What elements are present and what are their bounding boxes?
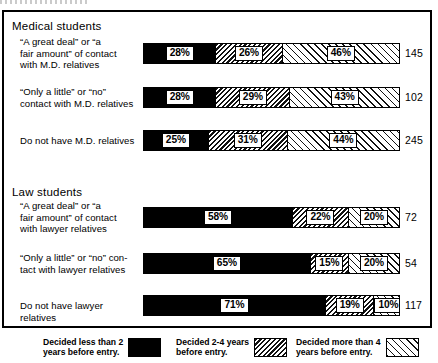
- bar-segment-value: 28%: [166, 46, 194, 61]
- stacked-bar: 28%26%46%: [143, 43, 400, 64]
- row-total: 145: [405, 47, 423, 59]
- bar-segment-value: 46%: [327, 46, 355, 61]
- bar-segment-0: 25%: [144, 131, 208, 150]
- legend-item: Decided less than 2 years before entry.: [43, 337, 161, 358]
- legend-swatch: [386, 338, 419, 357]
- bar-segment-1: 15%: [310, 254, 348, 273]
- bar-segment-1: 29%: [215, 88, 289, 107]
- legend-label: Decided less than 2 years before entry.: [43, 337, 123, 358]
- bar-segment-0: 71%: [144, 296, 325, 315]
- chart-legend: Decided less than 2 years before entry.D…: [0, 336, 438, 363]
- bar-segment-value: 28%: [166, 90, 194, 105]
- stacked-bar: 25%31%44%: [143, 130, 400, 151]
- bar-segment-2: 10%: [373, 296, 400, 315]
- bar-segment-2: 20%: [348, 254, 399, 273]
- legend-item: Decided 2-4 years before entry.: [176, 337, 287, 358]
- group-heading: Law students: [12, 186, 82, 198]
- stacked-bar: 58%22%20%: [143, 207, 400, 228]
- bar-segment-value: 29%: [239, 90, 267, 105]
- bar-segment-2: 44%: [287, 131, 399, 150]
- bar-segment-value: 44%: [329, 133, 357, 148]
- chart-row: Do not have M.D. relatives25%31%44%245: [0, 123, 430, 163]
- bar-segment-0: 65%: [144, 254, 310, 273]
- row-total: 54: [405, 257, 417, 269]
- row-label: “Only a little” or “no” contact with M.D…: [20, 86, 140, 109]
- row-label: Do not have M.D. relatives: [20, 135, 140, 147]
- bar-segment-value: 58%: [204, 210, 232, 225]
- bar-segment-value: 65%: [213, 256, 241, 271]
- stacked-bar: 28%29%43%: [143, 87, 400, 108]
- row-total: 72: [405, 211, 417, 223]
- legend-swatch: [254, 338, 287, 357]
- row-label: “A great deal” or “a fair amount” of con…: [20, 200, 140, 235]
- row-label: Do not have lawyer relatives: [20, 300, 140, 323]
- bar-segment-value: 31%: [234, 133, 262, 148]
- chart-row: “Only a little” or “no” contact with M.D…: [0, 80, 430, 120]
- group-heading: Medical students: [12, 20, 102, 32]
- bar-segment-value: 10%: [374, 298, 400, 313]
- bar-segment-0: 28%: [144, 88, 215, 107]
- row-label: “Only a little” or “no” con- tact with l…: [20, 252, 140, 275]
- bar-segment-1: 22%: [292, 208, 348, 227]
- bar-segment-value: 19%: [336, 298, 364, 313]
- bar-segment-0: 58%: [144, 208, 292, 227]
- bar-segment-value: 20%: [360, 256, 388, 271]
- row-total: 102: [405, 91, 423, 103]
- bar-segment-2: 46%: [282, 44, 399, 63]
- row-total: 117: [405, 299, 422, 311]
- stacked-bar: 65%15%20%: [143, 253, 400, 274]
- bar-segment-1: 26%: [215, 44, 281, 63]
- stacked-bar: 71%19%10%: [143, 295, 400, 316]
- legend-label: Decided more than 4 years before entry.: [296, 337, 381, 358]
- bar-segment-value: 43%: [331, 90, 359, 105]
- chart-row: “A great deal” or “a fair amount” of con…: [0, 200, 430, 240]
- bar-segment-2: 43%: [289, 88, 399, 107]
- chart-row: “Only a little” or “no” con- tact with l…: [0, 246, 430, 286]
- bar-segment-value: 20%: [360, 210, 388, 225]
- bar-segment-1: 31%: [208, 131, 287, 150]
- chart-row: “A great deal” or “a fair amount” of con…: [0, 36, 430, 76]
- chart-row: Do not have lawyer relatives71%19%10%117: [0, 288, 430, 328]
- legend-swatch: [128, 338, 161, 357]
- bar-segment-value: 71%: [220, 298, 248, 313]
- bar-segment-2: 20%: [348, 208, 399, 227]
- bar-segment-1: 19%: [325, 296, 373, 315]
- bar-segment-value: 26%: [235, 46, 263, 61]
- bar-segment-value: 25%: [162, 133, 190, 148]
- scan-artifact: [0, 0, 90, 4]
- legend-item: Decided more than 4 years before entry.: [296, 337, 419, 358]
- bar-segment-value: 22%: [306, 210, 334, 225]
- bar-segment-0: 28%: [144, 44, 215, 63]
- bar-segment-value: 15%: [315, 256, 343, 271]
- row-total: 245: [405, 134, 423, 146]
- row-label: “A great deal” or “a fair amount” of con…: [20, 36, 140, 71]
- legend-label: Decided 2-4 years before entry.: [176, 337, 249, 358]
